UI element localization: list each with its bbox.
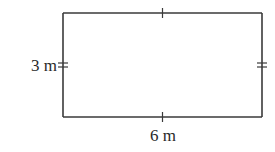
rectangle-diagram: 3 m 6 m [0,0,275,152]
left-side-length-label: 3 m [31,56,57,75]
bottom-side-length-label: 6 m [150,126,176,145]
